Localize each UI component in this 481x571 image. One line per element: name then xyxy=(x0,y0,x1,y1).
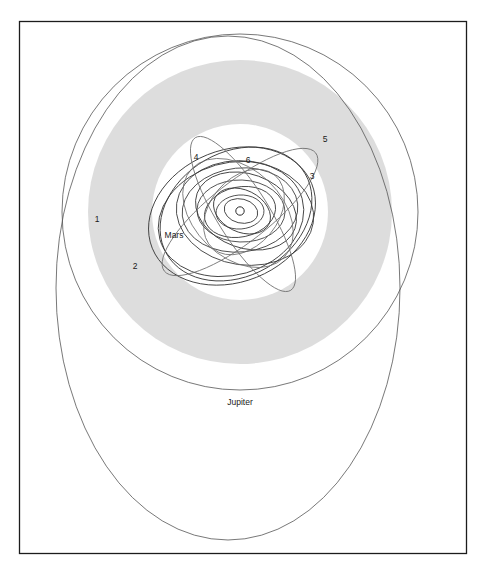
orbital-diagram: 1 2 3 4 5 6 Mars Jupiter xyxy=(0,0,481,571)
sun-marker xyxy=(236,207,244,215)
label-orbit-4: 4 xyxy=(194,152,199,162)
label-jupiter: Jupiter xyxy=(227,397,253,407)
label-orbit-6: 6 xyxy=(246,155,251,165)
label-orbit-3: 3 xyxy=(310,171,315,181)
label-orbit-2: 2 xyxy=(133,261,138,271)
label-mars: Mars xyxy=(165,230,184,240)
asteroid-belt xyxy=(0,0,481,571)
label-orbit-1: 1 xyxy=(95,214,100,224)
diagram-canvas: 1 2 3 4 5 6 Mars Jupiter xyxy=(0,0,481,571)
label-orbit-5: 5 xyxy=(323,134,328,144)
